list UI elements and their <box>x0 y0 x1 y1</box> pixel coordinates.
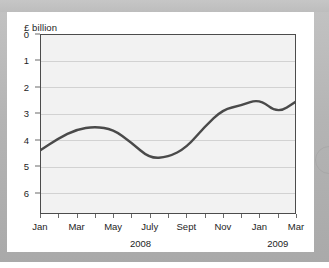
x-axis-tick-mark <box>223 214 224 218</box>
x-axis-tick-label: Nov <box>214 221 231 232</box>
y-axis-tick-label: 2 <box>24 81 29 92</box>
y-axis-tick-label: 4 <box>24 134 29 145</box>
x-axis-tick-mark <box>77 214 78 218</box>
x-axis-tick-mark <box>168 214 169 218</box>
x-axis-year-label: 2009 <box>267 238 288 249</box>
x-axis-tick-mark <box>241 214 242 218</box>
series-path <box>40 101 296 158</box>
y-axis-tick-group: 0123456 <box>7 12 40 216</box>
y-axis-tick-label: 5 <box>24 161 29 172</box>
y-axis-tick-label: 6 <box>24 187 29 198</box>
page-top-band <box>0 0 329 12</box>
screenshot-root: £ billion 0123456 JanMarMayJulySeptNovJa… <box>0 0 329 268</box>
x-axis-tick-label: Jan <box>252 221 267 232</box>
x-axis-tick-label: July <box>141 221 158 232</box>
x-axis-tick-mark <box>131 214 132 218</box>
series-line-value <box>40 34 296 214</box>
x-axis-tick-label: Mar <box>288 221 304 232</box>
y-axis-tick-label: 0 <box>24 29 29 40</box>
x-axis-tick-mark <box>186 214 187 218</box>
line-chart: £ billion 0123456 JanMarMayJulySeptNovJa… <box>7 12 314 252</box>
x-axis-tick-mark <box>95 214 96 218</box>
circle-arc-decoration-icon <box>315 146 329 174</box>
x-axis-tick-mark <box>205 214 206 218</box>
x-axis-tick-label: Mar <box>68 221 84 232</box>
x-axis-tick-mark <box>278 214 279 218</box>
x-axis-tick-mark <box>58 214 59 218</box>
x-axis-tick-mark <box>150 214 151 218</box>
x-axis-tick-mark <box>40 214 41 218</box>
page-bottom-strip <box>0 262 329 268</box>
x-axis-tick-mark <box>259 214 260 218</box>
x-axis-tick-mark <box>296 214 297 218</box>
x-axis-tick-label: May <box>104 221 122 232</box>
y-axis-tick-label: 3 <box>24 108 29 119</box>
x-axis-tick-label: Sept <box>177 221 197 232</box>
x-axis-tick-label: Jan <box>32 221 47 232</box>
y-axis-tick-label: 1 <box>24 55 29 66</box>
x-axis-year-label: 2008 <box>130 238 151 249</box>
x-axis-tick-mark <box>113 214 114 218</box>
